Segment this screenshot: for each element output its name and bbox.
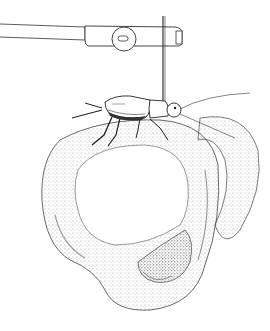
antenna-upper — [178, 93, 250, 110]
tether-arm — [0, 24, 182, 51]
foam-trefoil — [42, 117, 259, 311]
knob-slot — [118, 36, 128, 41]
clamp-end — [176, 31, 182, 44]
cricket-tether-illustration — [0, 0, 270, 331]
